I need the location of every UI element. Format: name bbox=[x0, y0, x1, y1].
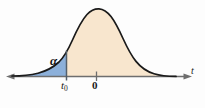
t0-axis-label: t0 bbox=[61, 80, 68, 93]
distribution-plot-svg bbox=[0, 0, 205, 108]
distribution-figure: α t0 0 t bbox=[0, 0, 205, 108]
alpha-label: α bbox=[50, 54, 57, 67]
t-axis-label: t bbox=[191, 66, 194, 76]
t0-subscript: 0 bbox=[64, 84, 68, 93]
non-rejection-region-fill bbox=[12, 9, 176, 77]
zero-axis-label: 0 bbox=[92, 80, 98, 91]
